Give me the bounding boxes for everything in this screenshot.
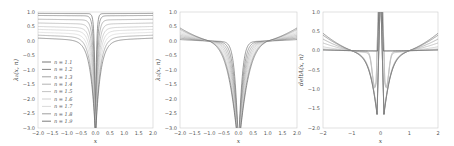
y-tick-label: −0.5 (23, 52, 35, 58)
y-tick-label: −1.0 (165, 67, 177, 73)
x-tick-label: −2.0 (32, 130, 44, 136)
legend-entry: n = 1.2 (54, 66, 73, 72)
x-tick-label: 1.5 (278, 130, 286, 136)
plot-frame (180, 12, 297, 128)
x-tick-label: −0.5 (75, 130, 87, 136)
y-tick-label: −1.0 (23, 67, 35, 73)
right-panel-chart: −2−10121.00.50.0−0.5−1.0−1.5−2.0xdeltA(x… (297, 0, 440, 144)
y-tick-label: 1.0 (312, 9, 320, 15)
x-tick-label: 0.5 (249, 130, 257, 136)
y-axis-label: λ₂(x, n) (154, 58, 161, 82)
y-tick-label: −1.5 (23, 81, 35, 87)
legend-entry: n = 1.9 (54, 118, 73, 124)
y-tick-label: −2.0 (308, 125, 320, 131)
series-line (180, 31, 297, 146)
legend-entry: n = 1.4 (54, 81, 73, 87)
series-line (323, 0, 438, 51)
y-tick-label: −2.5 (23, 110, 35, 116)
figure: −2.0−1.5−1.0−0.50.00.51.01.52.01.00.50.0… (0, 0, 454, 146)
y-tick-label: −1.5 (165, 81, 177, 87)
x-tick-label: 2.0 (293, 130, 301, 136)
y-axis-label: λ₁(x, n) (12, 58, 19, 82)
series-line (323, 0, 438, 88)
series-line (180, 32, 297, 145)
x-tick-label: 1.0 (264, 130, 272, 136)
y-tick-label: 0.5 (169, 23, 177, 29)
y-tick-label: −0.5 (165, 52, 177, 58)
y-tick-label: −3.0 (165, 125, 177, 131)
y-tick-label: −2.5 (165, 110, 177, 116)
x-tick-label: −2 (319, 130, 326, 136)
y-tick-label: −2.0 (23, 96, 35, 102)
x-axis-label: x (94, 137, 98, 144)
series-line (180, 38, 297, 143)
x-tick-label: 2 (436, 130, 439, 136)
y-tick-label: 0.5 (27, 23, 35, 29)
x-tick-label: −1.5 (189, 130, 201, 136)
y-tick-label: 1.0 (169, 9, 177, 15)
x-tick-label: −1 (348, 130, 355, 136)
series-line (323, 0, 438, 87)
legend-entry: n = 1.6 (54, 96, 73, 102)
x-axis-label: x (379, 137, 383, 144)
y-tick-label: 0.0 (169, 38, 177, 44)
x-tick-label: 1.0 (120, 130, 128, 136)
legend-entry: n = 1.7 (54, 103, 73, 109)
y-tick-label: −3.0 (23, 125, 35, 131)
series-line (323, 0, 438, 115)
series-line (323, 0, 438, 86)
series-line (180, 29, 297, 146)
x-tick-label: 0.0 (235, 130, 243, 136)
middle-panel-chart: −2.0−1.5−1.0−0.50.00.51.01.52.01.00.50.0… (154, 9, 301, 146)
left-panel-chart: −2.0−1.5−1.0−0.50.00.51.01.52.01.00.50.0… (12, 9, 157, 144)
y-tick-label: 0.0 (312, 47, 320, 53)
x-tick-label: −1.5 (46, 130, 58, 136)
y-tick-label: −1.5 (308, 105, 320, 111)
x-tick-label: 0.5 (106, 130, 114, 136)
legend-entry: n = 1.5 (54, 88, 73, 94)
x-tick-label: −1.0 (203, 130, 215, 136)
x-axis-label: x (237, 137, 241, 144)
legend-entry: n = 1.8 (54, 111, 73, 117)
y-tick-label: −0.5 (308, 67, 320, 73)
y-tick-label: −1.0 (308, 86, 320, 92)
series-line (323, 0, 438, 51)
series-line (323, 0, 438, 114)
series-line (180, 40, 297, 143)
y-axis-label: deltA(x, n) (297, 53, 304, 85)
x-tick-label: 2.0 (149, 130, 157, 136)
legend-entry: n = 1.3 (54, 74, 73, 80)
x-tick-label: −0.5 (218, 130, 230, 136)
x-tick-label: −1.0 (61, 130, 73, 136)
y-tick-label: 0.5 (312, 28, 320, 34)
series-line (323, 0, 438, 51)
legend: n = 1.1n = 1.2n = 1.3n = 1.4n = 1.5n = 1… (42, 59, 73, 124)
plot-frame (323, 12, 438, 128)
y-tick-label: −2.0 (165, 96, 177, 102)
x-tick-label: 0.0 (92, 130, 100, 136)
legend-entry: n = 1.1 (54, 59, 73, 65)
x-tick-label: 0 (379, 130, 382, 136)
x-tick-label: −2.0 (174, 130, 186, 136)
x-tick-label: 1.5 (135, 130, 143, 136)
y-tick-label: 1.0 (27, 9, 35, 15)
x-tick-label: 1 (408, 130, 411, 136)
y-tick-label: 0.0 (27, 38, 35, 44)
series-line (323, 0, 438, 113)
